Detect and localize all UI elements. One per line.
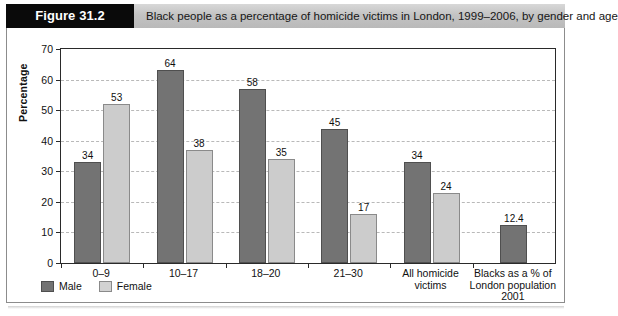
bar-value-label: 53	[111, 92, 122, 103]
legend-label-male: Male	[59, 280, 82, 292]
bar-value-label: 12.4	[504, 213, 523, 224]
y-axis-tick-label: 10	[27, 226, 53, 238]
bar-male: 64	[157, 70, 184, 263]
bar-value-label: 35	[276, 147, 287, 158]
legend-swatch-male-icon	[41, 281, 54, 292]
bar-value-label: 64	[164, 58, 175, 69]
gridline	[61, 171, 555, 172]
gridline	[61, 232, 555, 233]
gridline	[61, 110, 555, 111]
legend-label-female: Female	[117, 280, 152, 292]
figure-title: Black people as a percentage of homicide…	[146, 4, 618, 28]
bar-female: 38	[186, 150, 213, 263]
page-shadow	[8, 306, 564, 309]
bar-female: 53	[103, 104, 130, 263]
y-axis-tick	[56, 202, 61, 203]
y-axis-tick-label: 60	[27, 74, 53, 86]
y-axis-tick-label: 20	[27, 196, 53, 208]
figure-header-band: Figure 31.2 Black people as a percentage…	[6, 4, 565, 28]
y-axis-tick	[56, 110, 61, 111]
y-axis-tick-label: 30	[27, 165, 53, 177]
chart-legend: Male Female	[41, 280, 162, 292]
bar-male: 45	[321, 129, 348, 264]
y-axis-tick-label: 50	[27, 104, 53, 116]
bar-male: 12.4	[500, 225, 527, 263]
bar-female: 24	[433, 193, 460, 263]
plot-area: 0102030405060703453643858354517342412.4	[60, 48, 556, 264]
figure-number-badge: Figure 31.2	[6, 4, 134, 28]
bar-value-label: 45	[329, 117, 340, 128]
bar-female: 17	[350, 214, 377, 263]
gridline	[61, 141, 555, 142]
y-axis-tick-label: 70	[27, 43, 53, 55]
y-axis-tick-label: 40	[27, 135, 53, 147]
legend-item-male: Male	[41, 280, 82, 292]
bar-value-label: 38	[193, 138, 204, 149]
bar-female: 35	[268, 159, 295, 263]
legend-item-female: Female	[99, 280, 152, 292]
x-axis-category-label: Blacks as a % of London population 2001	[462, 268, 564, 303]
bar-male: 58	[239, 89, 266, 263]
y-axis-tick	[56, 171, 61, 172]
chart-box: Percentage 01020304050607034536438583545…	[6, 28, 565, 303]
bar-value-label: 58	[247, 77, 258, 88]
bar-value-label: 17	[358, 202, 369, 213]
y-axis-tick	[56, 232, 61, 233]
bar-male: 34	[74, 162, 101, 263]
bar-value-label: 34	[82, 150, 93, 161]
y-axis-tick	[56, 49, 61, 50]
y-axis-tick	[56, 80, 61, 81]
gridline	[61, 80, 555, 81]
legend-swatch-female-icon	[99, 281, 112, 292]
bar-value-label: 34	[411, 150, 422, 161]
bar-value-label: 24	[440, 181, 451, 192]
y-axis-tick	[56, 141, 61, 142]
bar-male: 34	[404, 162, 431, 263]
gridline	[61, 202, 555, 203]
